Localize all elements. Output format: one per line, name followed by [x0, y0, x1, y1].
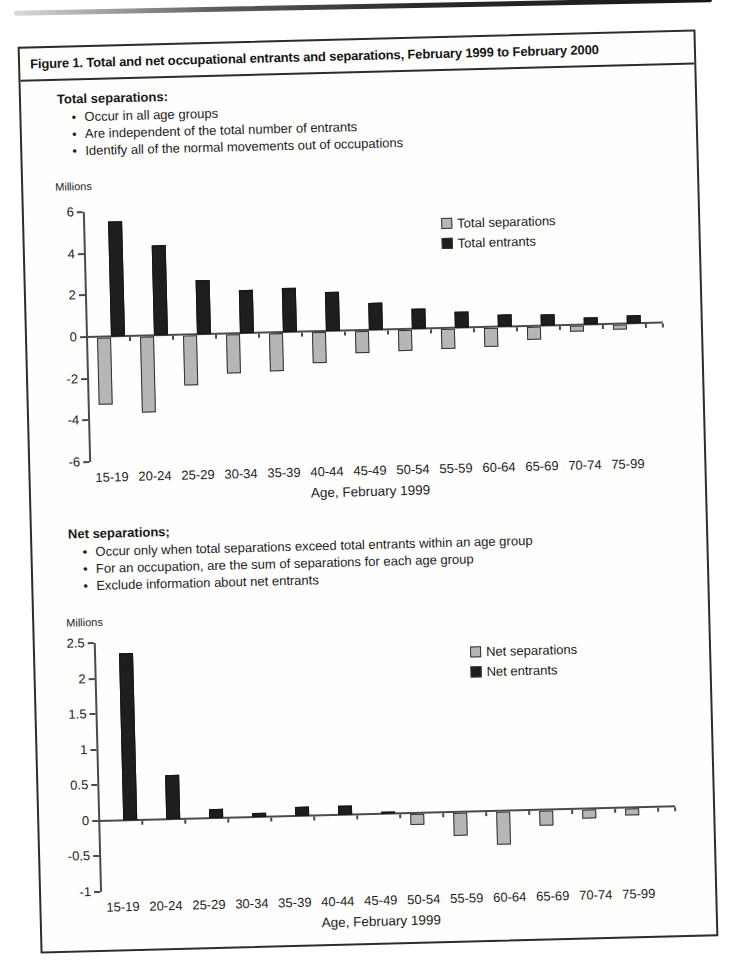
x-tick — [528, 811, 530, 815]
y-tick — [83, 461, 89, 463]
bar-total-entrants-55-59 — [454, 312, 468, 328]
bullet-icon: ● — [72, 142, 85, 159]
bar-total-separations-40-44 — [312, 332, 327, 364]
x-tick — [141, 821, 143, 825]
x-tick — [270, 817, 272, 821]
x-tick — [657, 808, 659, 812]
legend-label: Total separations — [457, 213, 556, 230]
x-axis-end-tick — [662, 323, 664, 327]
x-tick — [571, 810, 573, 814]
bar-net-separations-60-64 — [496, 811, 511, 845]
bar-total-separations-70-74 — [570, 325, 584, 332]
y-tick — [81, 378, 87, 380]
units-label: Millions — [66, 616, 103, 629]
y-tick-label: 0.5 — [42, 777, 88, 794]
bar-total-entrants-15-19 — [108, 222, 125, 337]
legend-label: Total entrants — [458, 234, 536, 251]
x-tick — [387, 330, 389, 334]
x-tick — [215, 335, 217, 339]
y-tick — [89, 678, 95, 680]
y-tick — [82, 419, 88, 421]
x-tick — [430, 329, 432, 333]
y-tick — [79, 294, 85, 296]
y-tick — [88, 642, 94, 644]
bar-net-entrants-25-29 — [209, 808, 223, 818]
legend-swatch-net-entrants-icon — [470, 666, 481, 677]
bar-total-separations-60-64 — [484, 328, 498, 347]
legend-swatch-net-separations-icon — [470, 646, 481, 657]
x-tick — [473, 328, 475, 332]
x-tick — [485, 812, 487, 816]
y-tick-label: 1.5 — [40, 706, 86, 723]
bullet-icon: ● — [82, 543, 95, 560]
y-tick-label: -0.5 — [44, 849, 90, 866]
bullet-icon: ● — [71, 108, 84, 125]
bar-total-separations-15-19 — [97, 337, 113, 404]
legend-swatch-total-separations-icon — [441, 218, 452, 229]
bar-total-separations-30-34 — [226, 334, 241, 373]
y-tick-label: -4 — [33, 413, 79, 430]
y-tick-label: 0 — [31, 329, 77, 346]
x-tick — [356, 815, 358, 819]
bullet-icon: ● — [72, 125, 85, 142]
bar-total-entrants-35-39 — [282, 288, 297, 332]
x-tick — [313, 816, 315, 820]
x-tick — [399, 814, 401, 818]
bar-net-entrants-45-49 — [381, 811, 395, 813]
bar-total-separations-45-49 — [355, 331, 370, 353]
bar-total-entrants-50-54 — [411, 309, 425, 329]
bar-net-separations-75-99 — [625, 808, 639, 815]
legend-label: Net separations — [486, 642, 577, 659]
x-tick — [344, 332, 346, 336]
x-axis-end-tick — [674, 807, 676, 811]
y-tick-label: 6 — [28, 204, 74, 221]
y-tick-label: -6 — [34, 454, 80, 471]
bar-total-entrants-75-99 — [627, 315, 641, 324]
y-tick — [91, 784, 97, 786]
x-tick — [227, 818, 229, 822]
x-tick — [614, 809, 616, 813]
bullet-icon: ● — [83, 577, 96, 594]
units-label: Millions — [55, 180, 92, 193]
bar-total-separations-55-59 — [441, 329, 455, 349]
bar-total-separations-75-99 — [613, 324, 627, 330]
y-tick-label: 2 — [30, 288, 76, 305]
bar-net-entrants-30-34 — [252, 812, 266, 817]
bar-net-separations-65-69 — [539, 810, 553, 826]
x-tick — [301, 333, 303, 337]
y-tick-label: 2 — [39, 671, 85, 688]
bar-total-entrants-45-49 — [368, 302, 383, 329]
y-tick — [93, 855, 99, 857]
scanned-figure-page: { "figure": { "title": "Figure 1. Total … — [0, 0, 733, 964]
net-separations-heading: Net separations; — [68, 524, 170, 542]
x-tick — [129, 337, 131, 341]
x-tick — [184, 820, 186, 824]
x-category-label: 75-99 — [613, 886, 664, 902]
bar-total-separations-35-39 — [269, 333, 284, 371]
legend-swatch-total-entrants-icon — [442, 238, 453, 249]
y-tick-label: 4 — [29, 246, 75, 263]
bar-total-separations-20-24 — [140, 336, 156, 412]
total-separations-heading: Total separations: — [57, 89, 168, 107]
y-tick-label: 2.5 — [39, 635, 85, 652]
bar-net-separations-70-74 — [582, 809, 596, 819]
y-tick — [90, 749, 96, 751]
y-tick — [90, 713, 96, 715]
x-tick — [172, 336, 174, 340]
figure-box: Figure 1. Total and net occupational ent… — [18, 30, 719, 954]
y-tick — [94, 891, 100, 893]
x-tick — [258, 334, 260, 338]
total-separations-bullets: ● Occur in all age groups ● Are independ… — [71, 100, 403, 159]
bar-total-separations-65-69 — [527, 327, 541, 340]
legend-label: Net entrants — [486, 662, 557, 679]
x-tick — [645, 324, 647, 328]
bar-net-separations-55-59 — [453, 812, 468, 835]
x-tick — [602, 325, 604, 329]
net-separations-bullets: ● Occur only when total separations exce… — [82, 532, 533, 594]
bar-net-entrants-15-19 — [119, 653, 137, 820]
bar-total-entrants-40-44 — [325, 292, 340, 331]
bar-net-entrants-20-24 — [165, 775, 180, 819]
y-tick-label: 1 — [41, 742, 87, 759]
y-tick — [77, 211, 83, 213]
bar-net-separations-50-54 — [410, 814, 424, 825]
